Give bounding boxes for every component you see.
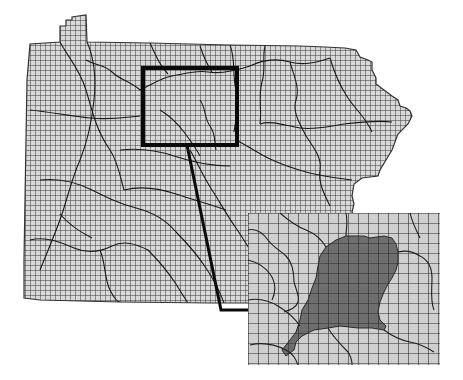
map-figure: [0, 0, 463, 380]
state-watershed-map: [0, 0, 463, 380]
zoom-inset: [248, 213, 440, 365]
